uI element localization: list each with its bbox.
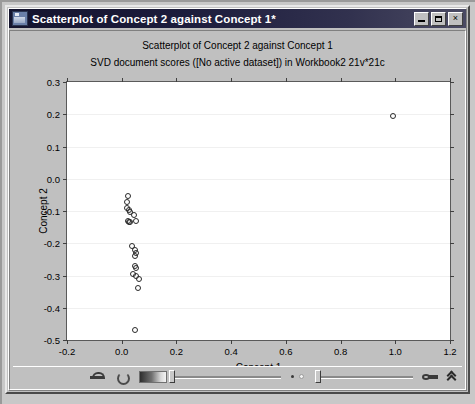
- x-axis-tick-top: [122, 78, 123, 82]
- y-gridline: [67, 308, 450, 309]
- y-axis-label: 0.2: [47, 109, 60, 120]
- y-gridline: [67, 147, 450, 148]
- y-axis-tick: [63, 211, 67, 212]
- marker-size-slider-track: [169, 376, 281, 379]
- x-axis-tick: [341, 340, 342, 344]
- scatter-point[interactable]: [132, 253, 138, 259]
- window-controls: ×: [414, 12, 463, 26]
- minimize-button[interactable]: [414, 12, 429, 26]
- y-axis-label: -0.2: [44, 238, 60, 249]
- y-axis-tick: [63, 243, 67, 244]
- zoom-slider[interactable]: [315, 370, 413, 383]
- close-icon: ×: [449, 13, 462, 25]
- y-gridline: [67, 243, 450, 244]
- x-axis-tick: [286, 340, 287, 344]
- y-axis-tick-right: [450, 82, 454, 83]
- x-axis-tick-top: [341, 78, 342, 82]
- scatter-point[interactable]: [390, 113, 396, 119]
- marker-size-slider[interactable]: [169, 370, 281, 383]
- minimize-label: [415, 13, 428, 25]
- scatter-point[interactable]: [133, 265, 139, 271]
- title-bar[interactable]: Scatterplot of Concept 2 against Concept…: [9, 9, 466, 28]
- marker-size-slider-thumb[interactable]: [169, 370, 175, 383]
- y-axis-tick: [63, 179, 67, 180]
- zoom-slider-thumb[interactable]: [315, 370, 321, 383]
- key-tool-icon[interactable]: [422, 370, 438, 383]
- x-axis-tick: [122, 340, 123, 344]
- brush-tool-icon[interactable]: [89, 370, 105, 383]
- y-axis-label: -0.3: [44, 270, 60, 281]
- y-axis-tick-right: [450, 179, 454, 180]
- chart-window-icon: [12, 11, 28, 26]
- maximize-label: [432, 13, 445, 25]
- chart-title: Scatterplot of Concept 2 against Concept…: [10, 40, 465, 51]
- maximize-button[interactable]: [431, 12, 446, 26]
- close-button[interactable]: ×: [448, 12, 463, 26]
- y-axis-tick-right: [450, 308, 454, 309]
- y-axis-tick: [63, 308, 67, 309]
- x-axis-tick: [395, 340, 396, 344]
- gradient-swatch-icon[interactable]: [139, 371, 167, 383]
- window-title: Scatterplot of Concept 2 against Concept…: [32, 13, 414, 25]
- y-axis-tick-right: [450, 243, 454, 244]
- screenshot-root: Scatterplot of Concept 2 against Concept…: [0, 0, 475, 404]
- y-axis-tick: [63, 147, 67, 148]
- x-axis-label: 1.0: [389, 346, 402, 357]
- y-axis-label: -0.1: [44, 206, 60, 217]
- x-axis-tick: [176, 340, 177, 344]
- y-axis-tick-right: [450, 276, 454, 277]
- graph-toolbar: [13, 366, 462, 386]
- x-axis-tick-top: [395, 78, 396, 82]
- scatter-plot-area[interactable]: Concept 2 Concept 1 0.30.20.10.0-0.1-0.2…: [66, 81, 451, 341]
- y-axis-label: -0.5: [44, 335, 60, 346]
- x-axis-tick-top: [286, 78, 287, 82]
- rotate-tool-icon[interactable]: [114, 370, 130, 383]
- x-axis-label: 0.0: [115, 346, 128, 357]
- y-axis-label: 0.0: [47, 173, 60, 184]
- y-axis-tick: [63, 114, 67, 115]
- y-axis-tick: [63, 276, 67, 277]
- x-axis-tick: [450, 340, 451, 344]
- chart-subtitle: SVD document scores ([No active dataset]…: [10, 57, 465, 68]
- chart-window: Scatterplot of Concept 2 against Concept…: [5, 5, 470, 394]
- x-axis-label: 0.6: [279, 346, 292, 357]
- x-axis-tick-top: [67, 78, 68, 82]
- window-client-area: Scatterplot of Concept 2 against Concept…: [9, 30, 466, 390]
- point-density-icon[interactable]: [290, 370, 306, 383]
- x-axis-tick-top: [176, 78, 177, 82]
- scatter-point[interactable]: [136, 276, 142, 282]
- x-axis-tick-top: [231, 78, 232, 82]
- x-axis-label: -0.2: [59, 346, 75, 357]
- x-axis-label: 0.4: [225, 346, 238, 357]
- y-axis-label: 0.3: [47, 77, 60, 88]
- y-gridline: [67, 211, 450, 212]
- collapse-chevron-icon[interactable]: [447, 370, 458, 383]
- scatter-point[interactable]: [133, 218, 139, 224]
- scatter-point[interactable]: [132, 327, 138, 333]
- x-axis-tick-top: [450, 78, 451, 82]
- x-axis-label: 0.8: [334, 346, 347, 357]
- scatter-point[interactable]: [135, 285, 141, 291]
- y-axis-label: -0.4: [44, 302, 60, 313]
- scatter-point[interactable]: [125, 193, 131, 199]
- x-axis-label: 0.2: [170, 346, 183, 357]
- x-axis-tick: [67, 340, 68, 344]
- y-axis-tick: [63, 82, 67, 83]
- y-axis-tick-right: [450, 147, 454, 148]
- y-axis-tick-right: [450, 211, 454, 212]
- x-axis-label: 1.2: [443, 346, 456, 357]
- y-axis-tick-right: [450, 114, 454, 115]
- y-gridline: [67, 179, 450, 180]
- zoom-slider-track: [315, 376, 413, 379]
- y-axis-label: 0.1: [47, 141, 60, 152]
- y-gridline: [67, 276, 450, 277]
- x-axis-tick: [231, 340, 232, 344]
